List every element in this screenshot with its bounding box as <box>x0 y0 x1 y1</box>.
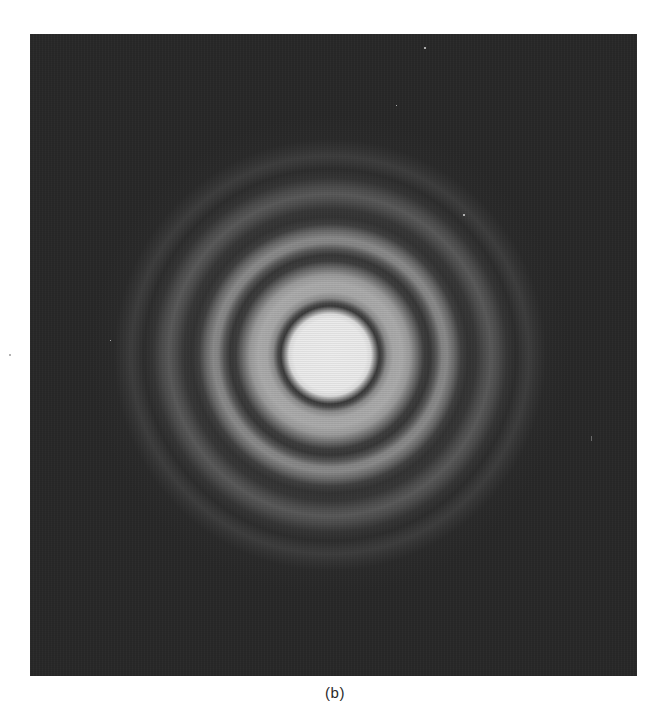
diffraction-figure: (b) <box>0 0 670 726</box>
airy-ring-pattern <box>30 34 637 676</box>
dust-speck <box>110 340 111 341</box>
dust-speck <box>424 47 426 49</box>
dust-speck <box>396 105 397 106</box>
figure-caption: (b) <box>0 684 670 701</box>
diffraction-photo-plate <box>30 34 637 676</box>
scratch-mark <box>591 436 592 441</box>
dust-speck <box>463 214 465 216</box>
stray-dot <box>9 354 11 356</box>
